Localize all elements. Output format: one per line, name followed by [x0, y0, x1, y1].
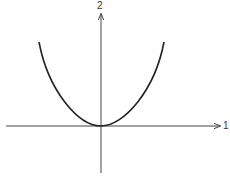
horizontal-axis-label: 1 — [223, 121, 229, 131]
plot-canvas — [0, 0, 230, 178]
vertical-axis-label: 2 — [97, 1, 103, 11]
